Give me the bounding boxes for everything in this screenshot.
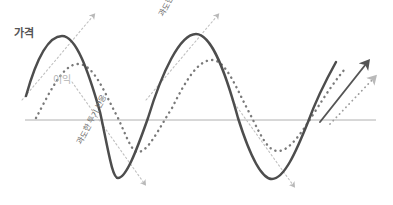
price-profit-cycle-diagram: 가격 이익 과도한 수기 반응 과도한 투기 반응: [0, 0, 393, 205]
trend-arrow-up-2: [146, 16, 217, 100]
price-curve: [26, 34, 336, 179]
price-label: 가격: [14, 28, 34, 39]
diagram-canvas: [0, 0, 393, 205]
profit-label: 이익: [53, 75, 71, 85]
